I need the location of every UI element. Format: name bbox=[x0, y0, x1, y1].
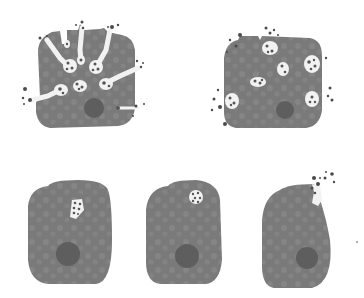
nucleus bbox=[276, 101, 294, 119]
nucleus bbox=[296, 247, 318, 269]
nucleus bbox=[84, 98, 104, 118]
cell-degranulation-diagram bbox=[0, 0, 364, 298]
cell-top-left bbox=[22, 21, 145, 129]
nucleus bbox=[56, 242, 80, 266]
cell-bottom-left bbox=[28, 180, 112, 284]
cell-top-right bbox=[211, 27, 334, 129]
cytoplasm bbox=[28, 180, 112, 284]
nucleus bbox=[175, 244, 199, 268]
cell-bottom-middle bbox=[146, 180, 222, 284]
vesicle bbox=[189, 190, 203, 204]
cytoplasm bbox=[146, 180, 222, 284]
cell-bottom-right bbox=[262, 171, 358, 288]
